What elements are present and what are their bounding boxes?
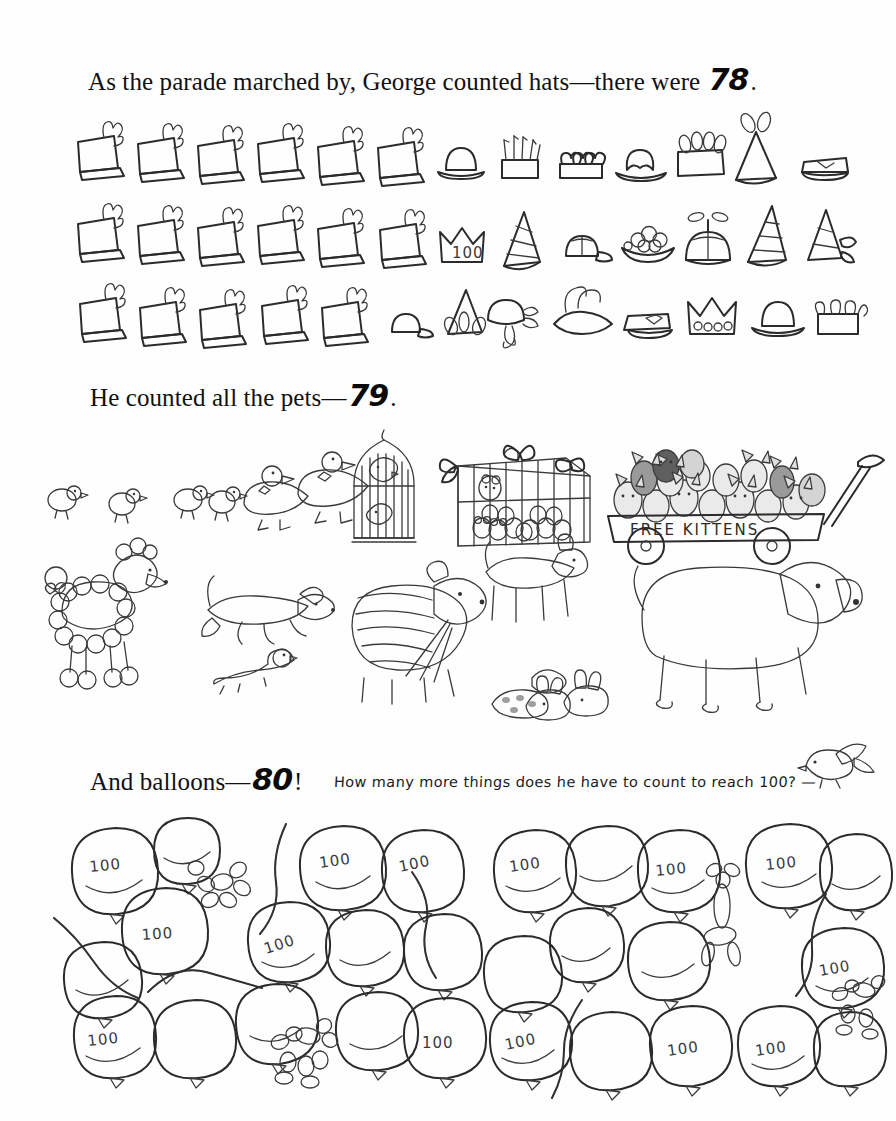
- propeller-beanie-hat: [678, 210, 738, 272]
- hats-caption-text: As the parade marched by, George counted…: [88, 68, 707, 95]
- hats-count-number: 78: [707, 62, 751, 97]
- balloon-100-label: 100: [765, 853, 798, 874]
- balloons-caption: And balloons—80!: [90, 762, 303, 797]
- balloon-100-label: 100: [87, 1029, 120, 1050]
- band-shako-hat: [190, 204, 250, 270]
- bowler-hat: [432, 138, 490, 186]
- crown-hat-with-100: 100: [434, 222, 496, 268]
- balloons-illustration: 100 100 100: [0, 810, 896, 1100]
- band-shako-hat: [132, 284, 192, 350]
- pets-caption-text: He counted all the pets—: [90, 384, 347, 411]
- big-hound-dog: [620, 530, 870, 712]
- light-cap-hat: [382, 310, 438, 344]
- pets-illustration: FREE KITTENS: [0, 420, 896, 740]
- pets-caption-period: .: [390, 384, 396, 411]
- duckling: [104, 486, 150, 526]
- band-shako-hat: [310, 205, 370, 271]
- jeweled-crown-hat: [682, 294, 748, 342]
- hats-illustration: 100: [0, 110, 896, 370]
- balloon-with-100: 100: [646, 1000, 744, 1104]
- band-shako-hat: [70, 200, 130, 266]
- feathered-box-hat: [670, 126, 732, 186]
- balloon-animal-dog: [180, 854, 260, 920]
- band-shako-hat: [314, 284, 374, 350]
- band-shako-hat: [310, 123, 370, 189]
- balloon-100-label: 100: [89, 855, 122, 876]
- question-annotation: How many more things does he have to cou…: [334, 774, 817, 790]
- balloon-100-label: 100: [666, 1038, 700, 1060]
- medium-dog: [472, 532, 592, 636]
- balloon-100-label: 100: [422, 1034, 454, 1052]
- balloon-animal-dog: [262, 1010, 352, 1092]
- heart-crown-hat: [552, 136, 610, 186]
- balloon-100-label: 100: [754, 1038, 788, 1060]
- fruit-bowl-hat: [616, 220, 680, 268]
- band-shako-hat: [130, 120, 190, 186]
- duckling: [44, 482, 90, 522]
- band-shako-hat: [72, 280, 132, 346]
- band-shako-hat: [254, 282, 314, 348]
- balloon-100-label: 100: [503, 1030, 538, 1054]
- birdcage: [346, 426, 424, 550]
- pets-caption: He counted all the pets—79.: [90, 378, 397, 413]
- balloon-animal-dog: [826, 970, 896, 1048]
- ribbon-bonnet-hat: [480, 292, 550, 356]
- band-shako-hat: [130, 202, 190, 268]
- balloon-100-label: 100: [318, 850, 352, 872]
- police-cap-hat: [618, 302, 682, 346]
- band-shako-hat: [70, 118, 130, 184]
- ringed-party-cone-hat: [740, 200, 798, 272]
- baseball-cap-hat: [556, 232, 616, 268]
- pets-count-number: 79: [347, 378, 391, 413]
- band-shako-hat: [372, 206, 432, 272]
- jester-hat: [810, 298, 870, 342]
- crown-100-label: 100: [452, 244, 484, 262]
- plumed-tricorn-hat: [548, 280, 618, 344]
- ribboned-cone-hat: [802, 204, 862, 272]
- peaked-cap-hat: [794, 146, 856, 186]
- plumed-party-cone-hat: [726, 110, 788, 188]
- hats-caption: As the parade marched by, George counted…: [88, 62, 757, 97]
- balloons-caption-text: And balloons—: [90, 768, 250, 795]
- balloons-caption-excl: !: [294, 768, 302, 795]
- noodle-balloon: [540, 994, 610, 1104]
- band-shako-hat: [190, 122, 250, 188]
- derby-hat: [748, 294, 810, 342]
- storybook-page: As the parade marched by, George counted…: [0, 0, 896, 1121]
- balloon-100-label: 100: [655, 859, 688, 880]
- band-shako-hat: [250, 202, 310, 268]
- balloon-animal-giraffe: [692, 858, 762, 978]
- ferret: [204, 640, 324, 700]
- noodle-balloon: [140, 956, 270, 1016]
- fringed-crown-hat: [492, 134, 550, 186]
- poodle-dog: [38, 538, 188, 700]
- balloon-100-label: 100: [508, 854, 542, 876]
- band-shako-hat: [250, 120, 310, 186]
- fedora-hat: [612, 140, 670, 186]
- leashed-small-pets: [486, 660, 626, 730]
- perched-bird: [796, 736, 880, 790]
- band-shako-hat: [370, 124, 430, 190]
- noodle-balloon: [392, 866, 462, 986]
- hats-caption-period: .: [750, 68, 756, 95]
- band-shako-hat: [192, 286, 252, 352]
- balloons-count-number: 80: [250, 762, 294, 797]
- striped-cone-hat: [494, 206, 552, 274]
